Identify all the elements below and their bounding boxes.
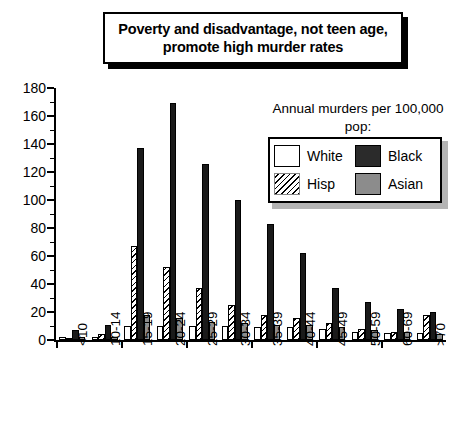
- x-tick-label-10-14: 10-14: [109, 311, 123, 346]
- hisp-hatch-swatch-icon: [274, 173, 300, 195]
- y-tick-label-100: 100: [6, 193, 46, 207]
- bar-group-<10: [56, 88, 89, 340]
- y-tick-label-120: 120: [6, 165, 46, 179]
- x-tick-label-45-49: 45-49: [336, 311, 350, 346]
- y-minor-tick: [50, 270, 54, 271]
- title-box: Poverty and disadvantage, not teen age, …: [103, 12, 403, 64]
- y-tick-label-80: 80: [6, 221, 46, 235]
- y-minor-tick: [50, 242, 54, 243]
- y-tick-label-20: 20: [6, 305, 46, 319]
- asian-swatch-icon: [355, 173, 381, 195]
- x-tick-label-25-29: 25-29: [206, 311, 220, 346]
- x-tick-label-35-39: 35-39: [271, 311, 285, 346]
- y-tick-40: [47, 283, 54, 285]
- x-tick-label-30-34: 30-34: [239, 311, 253, 346]
- x-tick-label-15-19: 15-19: [141, 311, 155, 346]
- legend-label-black: Black: [388, 149, 422, 163]
- x-tick-label-60-69: 60-69: [401, 311, 415, 346]
- page-title: Poverty and disadvantage, not teen age, …: [105, 20, 401, 56]
- y-tick-60: [47, 255, 54, 257]
- legend: White Black Hisp Asian: [268, 137, 448, 209]
- legend-label-asian: Asian: [388, 177, 423, 191]
- y-tick-label-40: 40: [6, 277, 46, 291]
- white-swatch-icon: [274, 145, 300, 167]
- legend-label-white: White: [307, 149, 343, 163]
- legend-box: White Black Hisp Asian: [268, 137, 442, 203]
- y-tick-160: [47, 115, 54, 117]
- x-tick-label->70: >70: [434, 323, 448, 346]
- y-tick-180: [47, 87, 54, 89]
- x-tick-label-40-44: 40-44: [304, 311, 318, 346]
- legend-item-white: White: [274, 145, 355, 167]
- y-minor-tick: [50, 214, 54, 215]
- y-tick-0: [47, 339, 54, 341]
- y-minor-tick: [50, 186, 54, 187]
- chart-title-banner: Poverty and disadvantage, not teen age, …: [103, 12, 403, 64]
- legend-heading: Annual murders per 100,000 pop:: [268, 100, 448, 135]
- y-minor-tick: [50, 130, 54, 131]
- y-axis-labels: 020406080100120140160180: [6, 88, 46, 340]
- bar-group-20-24: [154, 88, 187, 340]
- y-minor-tick: [50, 158, 54, 159]
- y-tick-label-180: 180: [6, 81, 46, 95]
- y-tick-140: [47, 143, 54, 145]
- y-tick-label-160: 160: [6, 109, 46, 123]
- bar-group-10-14: [89, 88, 122, 340]
- bar-group-25-29: [186, 88, 219, 340]
- y-tick-80: [47, 227, 54, 229]
- legend-item-hisp: Hisp: [274, 173, 355, 195]
- y-tick-120: [47, 171, 54, 173]
- x-tick-label-20-24: 20-24: [174, 311, 188, 346]
- y-minor-tick: [50, 326, 54, 327]
- black-swatch-icon: [355, 145, 381, 167]
- x-tick-label-<10: <10: [76, 323, 90, 346]
- legend-label-hisp: Hisp: [307, 177, 335, 191]
- legend-item-asian: Asian: [355, 173, 436, 195]
- x-axis-labels: <1010-1415-1920-2425-2930-3435-3940-4445…: [54, 346, 446, 406]
- y-tick-100: [47, 199, 54, 201]
- x-tick-label-50-59: 50-59: [369, 311, 383, 346]
- bar-group-15-19: [121, 88, 154, 340]
- y-tick-label-140: 140: [6, 137, 46, 151]
- bar-black-20-24: [170, 103, 176, 340]
- y-minor-tick: [50, 102, 54, 103]
- y-minor-tick: [50, 298, 54, 299]
- y-tick-label-60: 60: [6, 249, 46, 263]
- bar-group-30-34: [219, 88, 252, 340]
- y-tick-label-0: 0: [6, 333, 46, 347]
- legend-item-black: Black: [355, 145, 436, 167]
- y-tick-20: [47, 311, 54, 313]
